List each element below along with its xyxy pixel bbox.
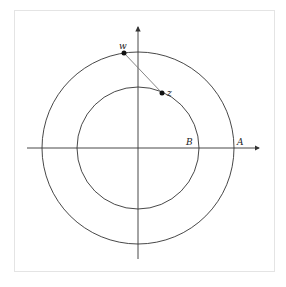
label-A: A bbox=[236, 137, 244, 147]
label-B: B bbox=[185, 137, 193, 147]
label-z: z bbox=[166, 88, 172, 98]
point-w bbox=[122, 51, 127, 56]
point-z bbox=[160, 91, 165, 96]
annulus-diagram: w z B A bbox=[0, 0, 286, 287]
label-w: w bbox=[119, 41, 127, 51]
